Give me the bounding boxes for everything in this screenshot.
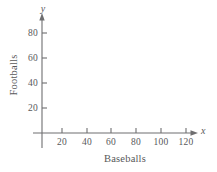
x-tick-label-100: 100 (154, 137, 169, 147)
x-tick-label-40: 40 (82, 137, 92, 147)
y-axis-arrowhead (39, 13, 44, 21)
x-axis-arrowhead (191, 130, 199, 135)
y-axis-title: Footballs (8, 55, 19, 96)
x-tick-label-120: 120 (179, 137, 194, 147)
y-tick-label-60: 60 (28, 53, 38, 63)
x-axis-symbol-label: x (201, 125, 205, 136)
y-tick-label-20: 20 (28, 103, 38, 113)
x-tick-label-80: 80 (131, 137, 141, 147)
y-tick-label-40: 40 (28, 78, 38, 88)
chart-figure: 20 40 60 80 100 120 20 40 60 80 x y Base… (0, 0, 217, 172)
x-tick-label-20: 20 (57, 137, 67, 147)
x-axis-ticks (62, 128, 186, 133)
x-tick-label-60: 60 (106, 137, 116, 147)
x-axis-title: Baseballs (104, 153, 146, 164)
y-tick-label-80: 80 (28, 28, 38, 38)
y-axis-symbol-label: y (41, 3, 45, 14)
y-axis-ticks (42, 33, 47, 108)
